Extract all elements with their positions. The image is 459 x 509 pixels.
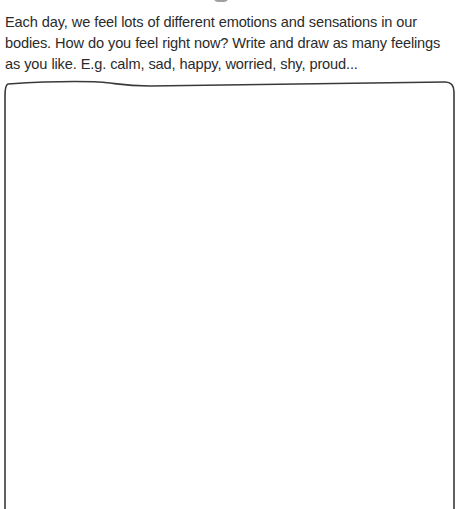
feelings-prompt: Each day, we feel lots of different emot… xyxy=(5,12,457,75)
feelings-drawing-area[interactable] xyxy=(6,86,453,509)
title-fragment xyxy=(214,0,228,2)
